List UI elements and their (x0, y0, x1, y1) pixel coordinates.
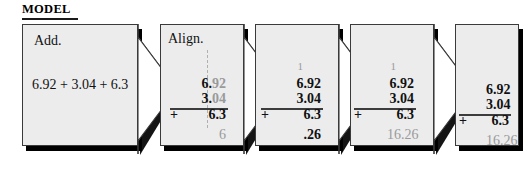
addend-row: +6.3 (164, 91, 236, 107)
addend-row: 6.92 (451, 66, 517, 82)
sum-value: .26 (304, 127, 322, 142)
addend-row: +6.3 (352, 91, 426, 107)
column-addition: 1 6.92 3.04 +6.3 .26 (259, 47, 331, 127)
column-addition: 6.92 3.04 +6.3 16.26 (451, 66, 517, 133)
sum-row: 16.26 (451, 117, 517, 133)
carry-row: 1 (259, 47, 331, 60)
panel-caption: Add. (34, 33, 62, 49)
column-addition: 1 6.92 3.04 +6.3 16.26 (352, 47, 426, 127)
sum-value: 16.26 (486, 133, 518, 148)
addend-row: +6.3 (451, 97, 517, 113)
addend-row: 3.04 (259, 76, 331, 92)
page-title: MODEL (22, 2, 71, 16)
sum-row: 6 (164, 111, 236, 127)
model-worked-example-figure: MODEL Add. 6.92 + 3.04 + 6.3 Align. (0, 0, 529, 181)
addend-row: 6.92 (352, 60, 426, 76)
title-underline (22, 18, 78, 20)
sum-row: 16.26 (352, 111, 426, 127)
addend-row: 3.04 (352, 76, 426, 92)
addend-row: 6.92 (259, 60, 331, 76)
sum-value: 16.26 (387, 127, 419, 142)
sum-value: 6 (219, 127, 226, 142)
carry-row: 1 (352, 47, 426, 60)
addend-row: 6.92 (164, 60, 236, 76)
addition-expression: 6.92 + 3.04 + 6.3 (32, 77, 128, 93)
column-addition: 6.92 3.04 +6.3 6 (164, 60, 236, 127)
addend-row: 3.04 (164, 76, 236, 92)
panel-caption: Align. (168, 31, 203, 47)
addend-row: +6.3 (259, 91, 331, 107)
addend-row: 3.04 (451, 82, 517, 98)
sum-row: .26 (259, 111, 331, 127)
